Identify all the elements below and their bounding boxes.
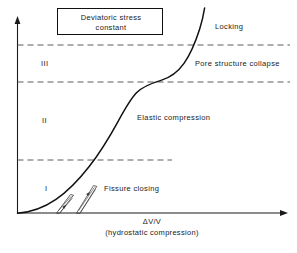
annotation-locking: Locking bbox=[215, 22, 243, 31]
callout-box-deviatoric-stress: Deviatoric stress constant bbox=[57, 8, 163, 35]
y-axis bbox=[15, 16, 21, 213]
x-axis-title: ΔV/V bbox=[97, 217, 207, 226]
annotation-pore-structure-collapse: Pore structure collapse bbox=[195, 59, 280, 68]
region-marker-1: I bbox=[45, 184, 47, 193]
callout-text: Deviatoric stress constant bbox=[58, 13, 164, 33]
hysteresis-loop-2 bbox=[77, 186, 97, 214]
compression-curve bbox=[18, 8, 205, 213]
chart-canvas bbox=[0, 0, 297, 253]
annotation-fissure-closing: Fissure closing bbox=[104, 184, 159, 193]
x-axis-subtitle: (hydrostatic compression) bbox=[82, 228, 222, 237]
figure-hydrostatic-compression: Deviatoric stress constant Locking Pore … bbox=[0, 0, 297, 253]
annotation-elastic-compression: Elastic compression bbox=[137, 113, 210, 122]
region-marker-3: III bbox=[41, 59, 48, 68]
region-marker-2: II bbox=[42, 116, 47, 125]
